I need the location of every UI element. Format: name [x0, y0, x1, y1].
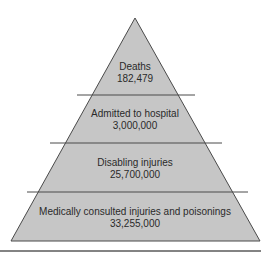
tier-disabling-injuries: Disabling injuries 25,700,000 [0, 157, 261, 181]
tier-label: Disabling injuries [0, 157, 261, 169]
tier-deaths: Deaths 182,479 [0, 61, 261, 85]
tier-value: 182,479 [0, 73, 261, 85]
tier-value: 3,000,000 [0, 120, 261, 132]
tier-medically-consulted: Medically consulted injuries and poisoni… [0, 206, 261, 230]
tier-label: Admitted to hospital [0, 108, 261, 120]
tier-label: Medically consulted injuries and poisoni… [0, 206, 261, 218]
tier-admitted-to-hospital: Admitted to hospital 3,000,000 [0, 108, 261, 132]
tier-value: 25,700,000 [0, 169, 261, 181]
tier-label: Deaths [0, 61, 261, 73]
tier-value: 33,255,000 [0, 218, 261, 230]
